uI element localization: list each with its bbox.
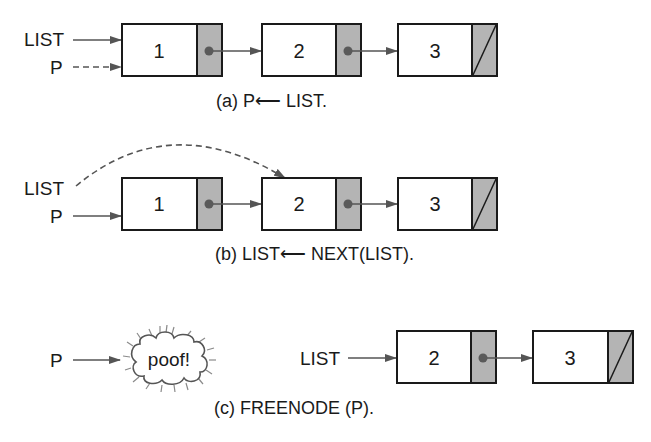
panel-c: P [50,325,633,418]
list-node: 2 [397,331,496,383]
list-node: 2 [262,178,361,230]
poof-text: poof! [148,349,190,370]
list-node: 1 [122,178,222,230]
linked-list-diagram: LIST P 1 2 3 (a) P⟵ LIST. LIST [0,0,651,442]
node-value: 1 [153,40,164,62]
list-pointer-label: LIST [300,348,341,369]
p-pointer-label: P [50,57,63,78]
panel-b: LIST P 1 2 3 (b) LIST⟵ NEXT(LIST). [24,145,497,264]
node-value: 2 [293,193,304,215]
list-pointer-label: LIST [24,29,65,50]
caption-b: (b) LIST⟵ NEXT(LIST). [215,244,414,264]
list-node: 3 [533,331,633,383]
panel-a: LIST P 1 2 3 (a) P⟵ LIST. [24,24,497,111]
p-pointer-label: P [50,350,63,371]
pointer-dot-icon [205,200,214,209]
caption-c: (c) FREENODE (P). [214,398,374,418]
list-node: 2 [262,24,361,76]
node-value: 3 [429,193,440,215]
poof-cloud-icon: poof! [123,325,216,392]
node-value: 3 [429,40,440,62]
pointer-dot-icon [344,47,353,56]
list-node: 1 [122,24,222,76]
p-pointer-label: P [50,206,63,227]
list-pointer-label: LIST [24,178,65,199]
pointer-dot-icon [344,200,353,209]
pointer-dot-icon [479,354,488,363]
node-value: 3 [564,347,575,369]
list-node: 3 [398,178,497,230]
caption-a: (a) P⟵ LIST. [216,91,327,111]
node-value: 1 [153,193,164,215]
pointer-dot-icon [205,47,214,56]
node-value: 2 [428,347,439,369]
node-value: 2 [293,40,304,62]
list-node: 3 [398,24,497,76]
